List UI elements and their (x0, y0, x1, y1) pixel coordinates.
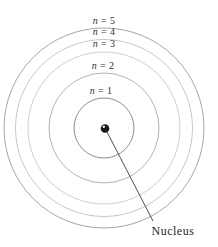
orbit-label-n3-value: = 3 (98, 38, 115, 49)
nucleus-dot (101, 124, 110, 133)
nucleus (101, 124, 110, 133)
orbit-label-n4-value: = 4 (98, 26, 115, 37)
nucleus-leader-line (107, 131, 154, 221)
orbit-label-n2: n = 2 (92, 60, 115, 71)
bohr-model-diagram: n = 5 n = 4 n = 3 n = 2 n = 1 Nucleus (0, 0, 218, 247)
nucleus-label: Nucleus (152, 224, 195, 238)
orbit-label-n5: n = 5 (93, 15, 116, 26)
orbit-label-n1-value: = 1 (95, 85, 112, 96)
orbit-label-n1: n = 1 (90, 85, 113, 96)
orbit-label-n5-value: = 5 (98, 15, 115, 26)
orbit-label-n4: n = 4 (93, 26, 116, 37)
orbit-label-n2-value: = 2 (97, 60, 114, 71)
orbit-labels: n = 5 n = 4 n = 3 n = 2 n = 1 (90, 15, 116, 96)
bohr-model-figure: n = 5 n = 4 n = 3 n = 2 n = 1 Nucleus (0, 0, 218, 247)
orbit-label-n3: n = 3 (93, 38, 116, 49)
nucleus-highlight (103, 126, 105, 128)
